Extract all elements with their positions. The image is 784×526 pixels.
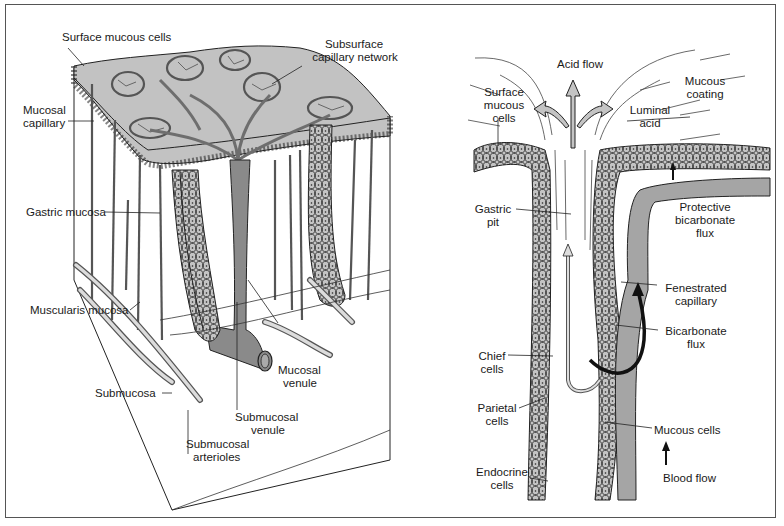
label-mucosal-capillary-1: Mucosal bbox=[23, 104, 66, 117]
label-subsurface-2: capillary network bbox=[300, 51, 410, 64]
label-submucosal-arterioles-2: arterioles bbox=[193, 451, 240, 464]
label-mucous-coating-1: Mucous bbox=[680, 75, 730, 88]
acid-flow-arrow-left bbox=[534, 101, 569, 128]
label-submucosal-venule-2: venule bbox=[251, 424, 285, 437]
label-mucosal-venule-1: Mucosal bbox=[278, 364, 321, 377]
label-endocrine-cells-2: cells bbox=[472, 479, 532, 492]
label-luminal-acid-2: acid bbox=[625, 117, 675, 130]
label-luminal-acid-1: Luminal bbox=[625, 104, 675, 117]
label-mucous-coating-2: coating bbox=[680, 88, 730, 101]
label-acid-flow: Acid flow bbox=[557, 58, 603, 71]
label-chief-cells-2: cells bbox=[475, 363, 509, 376]
label-mucosal-capillary-2: capillary bbox=[23, 117, 65, 130]
label-mucous-cells: Mucous cells bbox=[654, 424, 720, 437]
acid-flow-arrow-right bbox=[577, 101, 613, 128]
label-parietal-cells-2: cells bbox=[473, 415, 521, 428]
label-surface-mucous-1: Surface bbox=[479, 86, 529, 99]
label-bicarbonate-flux-1: Bicarbonate bbox=[656, 325, 736, 338]
label-gastric-mucosa: Gastric mucosa bbox=[26, 206, 106, 219]
label-submucosal-venule-1: Submucosal bbox=[235, 411, 298, 424]
label-chief-cells-1: Chief bbox=[475, 350, 509, 363]
label-surface-mucous-3: cells bbox=[479, 112, 529, 125]
label-mucosal-venule-2: venule bbox=[283, 377, 317, 390]
label-protective-1: Protective bbox=[665, 201, 745, 214]
illustration bbox=[0, 0, 784, 526]
label-fenestrated-2: capillary bbox=[656, 295, 736, 308]
label-parietal-cells-1: Parietal bbox=[473, 402, 521, 415]
label-submucosa: Submucosa bbox=[95, 387, 156, 400]
label-bicarbonate-flux-2: flux bbox=[656, 338, 736, 351]
label-submucosal-arterioles-1: Submucosal bbox=[186, 438, 249, 451]
label-surface-mucous-2: mucous bbox=[479, 99, 529, 112]
label-subsurface-1: Subsurface bbox=[304, 38, 404, 51]
label-gastric-pit-1: Gastric bbox=[471, 203, 515, 216]
label-surface-mucous-cells: Surface mucous cells bbox=[62, 31, 171, 44]
acid-flow-arrow-up bbox=[566, 80, 580, 148]
label-endocrine-cells-1: Endocrine bbox=[472, 466, 532, 479]
label-fenestrated-1: Fenestrated bbox=[656, 282, 736, 295]
label-muscularis-mucosa: Muscularis mucosa bbox=[30, 304, 128, 317]
label-blood-flow: Blood flow bbox=[663, 472, 716, 485]
label-gastric-pit-2: pit bbox=[471, 216, 515, 229]
label-protective-3: flux bbox=[665, 227, 745, 240]
label-protective-2: bicarbonate bbox=[665, 214, 745, 227]
